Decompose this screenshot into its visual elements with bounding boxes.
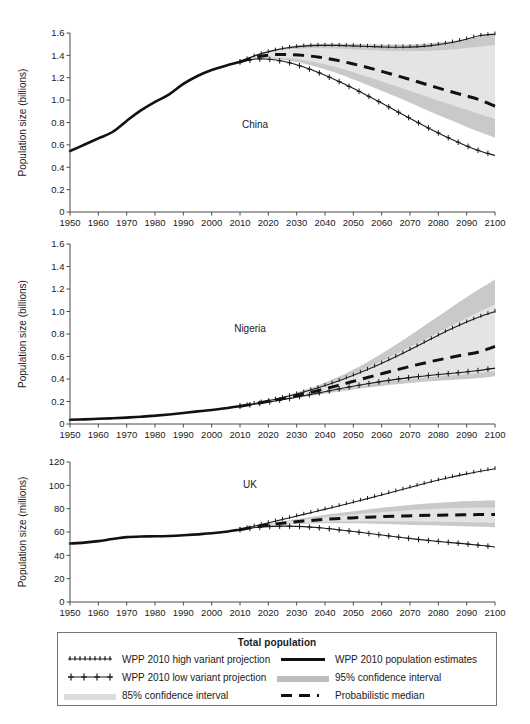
panel-nigeria: 00.20.40.60.81.01.21.41.6195019601970198… [0,232,530,450]
high-variant-swatch [64,653,116,665]
y-tick-label: 1.0 [51,94,64,105]
x-tick-label: 2090 [456,429,477,440]
population-estimates-line [70,62,240,151]
population-estimates-line [70,530,240,544]
x-tick-label: 1990 [173,217,194,228]
y-tick-label: 60 [54,526,65,537]
x-tick-label: 1990 [173,429,194,440]
chart-china: 00.20.40.60.81.01.21.41.6195019601970198… [0,0,530,232]
x-tick-label: 1970 [116,429,137,440]
x-tick-label: 2100 [484,607,505,618]
x-tick-label: 2060 [371,429,392,440]
x-tick-label: 2010 [229,217,250,228]
y-tick-label: 0 [59,418,64,429]
x-tick-label: 2070 [399,607,420,618]
y-tick-label: 0.2 [51,396,64,407]
x-tick-label: 2080 [428,217,449,228]
legend-label-median: Probabilistic median [335,690,425,701]
y-tick-label: 0 [59,596,64,607]
x-tick-label: 2040 [314,429,335,440]
x-tick-label: 1980 [144,429,165,440]
axes: 0204060801001201950196019701980199020002… [17,456,506,618]
median-swatch [277,689,329,701]
y-tick-label: 0.2 [51,184,64,195]
y-tick-label: 0.8 [51,117,64,128]
low-variant-swatch [64,671,116,683]
x-tick-label: 2070 [399,217,420,228]
y-tick-label: 0.4 [51,162,64,173]
legend-label-ci95: 95% confidence interval [335,672,441,683]
legend-label-low-variant: WPP 2010 low variant projection [122,672,266,683]
chart-nigeria: 00.20.40.60.81.01.21.41.6195019601970198… [0,232,530,450]
x-tick-label: 2010 [229,429,250,440]
legend: Total population WPP 2010 high variant p… [57,632,497,706]
legend-item-median: Probabilistic median [277,687,490,703]
panel-title: China [242,119,269,130]
x-tick-label: 2020 [258,217,279,228]
y-tick-label: 100 [49,480,65,491]
y-tick-label: 0 [59,206,64,217]
estimates-swatch [277,653,329,665]
y-tick-label: 1.4 [51,261,64,272]
y-tick-label: 1.2 [51,72,64,83]
chart-uk: 0204060801001201950196019701980199020002… [0,450,530,628]
x-tick-label: 2050 [343,607,364,618]
legend-item-estimates: WPP 2010 population estimates [277,651,490,667]
y-tick-label: 1.6 [51,27,64,38]
y-axis-label: Population size (millions) [17,477,28,588]
y-tick-label: 120 [49,456,65,467]
x-tick-label: 1970 [116,217,137,228]
panel-title: Nigeria [234,323,266,334]
y-tick-label: 1.4 [51,50,64,61]
x-tick-label: 2090 [456,607,477,618]
x-tick-label: 2050 [343,217,364,228]
x-tick-label: 2000 [201,607,222,618]
x-tick-label: 2000 [201,217,222,228]
x-tick-label: 1950 [59,607,80,618]
x-tick-label: 1970 [116,607,137,618]
y-tick-label: 80 [54,503,65,514]
x-tick-label: 1960 [88,217,109,228]
x-tick-label: 2050 [343,429,364,440]
x-tick-label: 2030 [286,217,307,228]
x-tick-label: 1990 [173,607,194,618]
x-tick-label: 2080 [428,429,449,440]
y-tick-label: 1.2 [51,283,64,294]
x-tick-label: 1980 [144,217,165,228]
x-tick-label: 2070 [399,429,420,440]
x-tick-label: 2080 [428,607,449,618]
legend-label-high-variant: WPP 2010 high variant projection [122,654,270,665]
y-tick-label: 0.6 [51,351,64,362]
x-tick-label: 2020 [258,429,279,440]
legend-item-ci95: 95% confidence interval [277,669,490,685]
x-tick-label: 2100 [484,217,505,228]
panel-china: 00.20.40.60.81.01.21.41.6195019601970198… [0,0,530,232]
y-tick-label: 1.6 [51,238,64,249]
y-axis-label: Population size (billions) [17,69,28,177]
population-estimates-line [70,406,240,420]
legend-item-low-variant: WPP 2010 low variant projection [64,669,277,685]
ci95-swatch [277,676,329,682]
x-tick-label: 2030 [286,429,307,440]
x-tick-label: 2030 [286,607,307,618]
legend-item-high-variant: WPP 2010 high variant projection [64,651,277,667]
x-tick-label: 2060 [371,607,392,618]
x-tick-label: 2000 [201,429,222,440]
legend-items: WPP 2010 high variant projectionWPP 2010… [58,651,496,703]
confidence-bands [240,279,495,406]
y-tick-label: 0.8 [51,328,64,339]
legend-label-ci85: 85% confidence interval [122,690,228,701]
x-tick-label: 1950 [59,429,80,440]
figure-root: 00.20.40.60.81.01.21.41.6195019601970198… [0,0,530,724]
y-tick-label: 0.4 [51,373,64,384]
x-tick-label: 1980 [144,607,165,618]
legend-title: Total population [58,637,496,648]
legend-label-estimates: WPP 2010 population estimates [335,654,477,665]
x-tick-label: 1950 [59,217,80,228]
y-tick-label: 1.0 [51,306,64,317]
ci85-swatch [64,694,116,700]
legend-item-ci85: 85% confidence interval [64,687,277,703]
low-variant-line-markers [238,523,491,549]
x-tick-label: 2020 [258,607,279,618]
y-axis-label: Population size (billions) [17,280,28,388]
